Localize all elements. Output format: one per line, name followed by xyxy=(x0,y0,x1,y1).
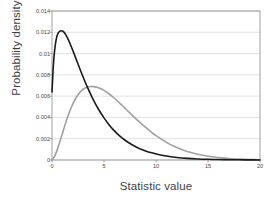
plot-frame xyxy=(52,11,260,160)
plot-area xyxy=(0,0,279,201)
series-line-null-distribution xyxy=(52,31,260,160)
gridlines xyxy=(52,11,260,160)
plot-border xyxy=(52,11,260,160)
series-layer xyxy=(52,31,260,160)
series-line-alternative-distribution xyxy=(52,87,260,160)
chart-container: Probability density Statistic value 00.0… xyxy=(0,0,279,201)
